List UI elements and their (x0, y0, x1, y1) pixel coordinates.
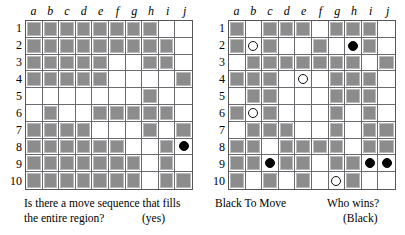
board-cell-e6[interactable] (92, 105, 109, 122)
board-cell-e8[interactable] (92, 139, 109, 156)
board-cell-j1[interactable] (175, 21, 192, 38)
board-cell-b1[interactable] (246, 21, 263, 38)
board-cell-b10[interactable] (246, 172, 263, 189)
board-cell-i7[interactable] (159, 122, 176, 139)
black-stone-c9[interactable] (265, 158, 275, 168)
board-cell-h10[interactable] (345, 172, 362, 189)
board-cell-c10[interactable] (59, 172, 76, 189)
board-cell-i6[interactable] (159, 105, 176, 122)
board-cell-f8[interactable] (109, 139, 126, 156)
board-cell-j7[interactable] (175, 122, 192, 139)
board-cell-c5[interactable] (262, 88, 279, 105)
board-cell-b3[interactable] (43, 55, 60, 72)
board-cell-h8[interactable] (345, 139, 362, 156)
board-cell-b5[interactable] (43, 88, 60, 105)
board-cell-e9[interactable] (92, 155, 109, 172)
board-cell-g9[interactable] (126, 155, 143, 172)
board-cell-h7[interactable] (142, 122, 159, 139)
board-cell-j10[interactable] (175, 172, 192, 189)
board-cell-j5[interactable] (175, 88, 192, 105)
board-cell-a4[interactable] (26, 71, 43, 88)
board-cell-a10[interactable] (229, 172, 246, 189)
board-cell-c6[interactable] (262, 105, 279, 122)
board-cell-c9[interactable] (59, 155, 76, 172)
board-cell-e8[interactable] (295, 139, 312, 156)
white-stone-e4[interactable] (298, 74, 308, 84)
board-cell-d9[interactable] (279, 155, 296, 172)
board-cell-b9[interactable] (43, 155, 60, 172)
board-cell-f3[interactable] (312, 55, 329, 72)
board-cell-h4[interactable] (142, 71, 159, 88)
board-cell-b6[interactable] (43, 105, 60, 122)
board-cell-d6[interactable] (76, 105, 93, 122)
board-cell-i8[interactable] (362, 139, 379, 156)
board-cell-a6[interactable] (229, 105, 246, 122)
board-cell-i2[interactable] (159, 38, 176, 55)
board-cell-h4[interactable] (345, 71, 362, 88)
black-stone-j9[interactable] (382, 158, 392, 168)
board-cell-j5[interactable] (378, 88, 395, 105)
board-cell-a3[interactable] (229, 55, 246, 72)
board-cell-b1[interactable] (43, 21, 60, 38)
board-cell-c1[interactable] (59, 21, 76, 38)
board-cell-c2[interactable] (59, 38, 76, 55)
board-cell-e10[interactable] (92, 172, 109, 189)
board-cell-g3[interactable] (329, 55, 346, 72)
board-cell-e7[interactable] (295, 122, 312, 139)
board-cell-e10[interactable] (295, 172, 312, 189)
board-cell-b6[interactable] (246, 105, 263, 122)
board-cell-d2[interactable] (76, 38, 93, 55)
board-cell-c4[interactable] (59, 71, 76, 88)
board-cell-i7[interactable] (362, 122, 379, 139)
board-cell-g7[interactable] (329, 122, 346, 139)
board-cell-a3[interactable] (26, 55, 43, 72)
board-cell-g10[interactable] (126, 172, 143, 189)
black-stone-i9[interactable] (365, 158, 375, 168)
board-cell-g7[interactable] (126, 122, 143, 139)
board-cell-f5[interactable] (312, 88, 329, 105)
board-cell-a5[interactable] (229, 88, 246, 105)
board-cell-f9[interactable] (312, 155, 329, 172)
board-cell-a1[interactable] (26, 21, 43, 38)
board-cell-h8[interactable] (142, 139, 159, 156)
board-cell-f9[interactable] (109, 155, 126, 172)
board-cell-f10[interactable] (109, 172, 126, 189)
board-cell-i10[interactable] (362, 172, 379, 189)
board-cell-i8[interactable] (159, 139, 176, 156)
board-grid-left[interactable] (25, 20, 193, 190)
board-cell-j8[interactable] (175, 139, 192, 156)
board-cell-j2[interactable] (378, 38, 395, 55)
board-cell-c3[interactable] (59, 55, 76, 72)
board-cell-b4[interactable] (43, 71, 60, 88)
board-cell-h5[interactable] (142, 88, 159, 105)
board-cell-g6[interactable] (329, 105, 346, 122)
board-cell-h2[interactable] (142, 38, 159, 55)
board-cell-d2[interactable] (279, 38, 296, 55)
board-cell-f7[interactable] (312, 122, 329, 139)
board-cell-a8[interactable] (229, 139, 246, 156)
board-cell-f7[interactable] (109, 122, 126, 139)
board-cell-d5[interactable] (76, 88, 93, 105)
board-cell-e5[interactable] (295, 88, 312, 105)
board-cell-c8[interactable] (59, 139, 76, 156)
board-cell-a5[interactable] (26, 88, 43, 105)
board-cell-b2[interactable] (43, 38, 60, 55)
board-cell-h6[interactable] (142, 105, 159, 122)
board-cell-d6[interactable] (279, 105, 296, 122)
board-cell-j4[interactable] (378, 71, 395, 88)
board-cell-h5[interactable] (345, 88, 362, 105)
board-cell-i2[interactable] (362, 38, 379, 55)
board-cell-f6[interactable] (109, 105, 126, 122)
board-cell-a8[interactable] (26, 139, 43, 156)
board-cell-j4[interactable] (175, 71, 192, 88)
board-cell-g1[interactable] (329, 21, 346, 38)
board-cell-i5[interactable] (362, 88, 379, 105)
board-cell-e2[interactable] (295, 38, 312, 55)
board-cell-c6[interactable] (59, 105, 76, 122)
board-cell-i3[interactable] (362, 55, 379, 72)
board-cell-b3[interactable] (246, 55, 263, 72)
board-cell-i1[interactable] (362, 21, 379, 38)
board-cell-j6[interactable] (378, 105, 395, 122)
board-cell-i5[interactable] (159, 88, 176, 105)
board-cell-e2[interactable] (92, 38, 109, 55)
